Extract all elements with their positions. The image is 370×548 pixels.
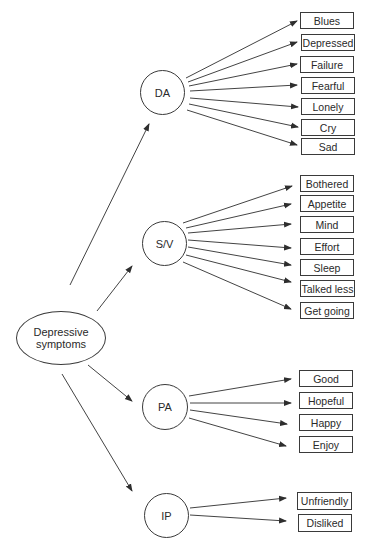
edge-root-to-sv bbox=[97, 266, 132, 311]
edge-root-to-pa bbox=[88, 365, 132, 401]
item-box-good: Good bbox=[299, 370, 353, 387]
edge-da-failure bbox=[189, 64, 297, 86]
edge-sv-get-going bbox=[183, 262, 291, 309]
item-box-mind: Mind bbox=[300, 216, 354, 233]
factor-node-pa: PA bbox=[142, 384, 188, 430]
edge-da-blues bbox=[186, 21, 297, 78]
item-box-happy: Happy bbox=[299, 414, 353, 431]
item-box-blues: Blues bbox=[300, 12, 354, 29]
edge-sv-effort bbox=[188, 240, 291, 248]
edge-root-to-ip bbox=[62, 374, 132, 491]
item-box-failure: Failure bbox=[300, 56, 354, 73]
root-label-line1: Depressive bbox=[33, 326, 88, 338]
factor-node-da: DA bbox=[140, 70, 185, 115]
edge-ip-disliked bbox=[190, 515, 286, 521]
edge-sv-bothered bbox=[183, 186, 292, 223]
factor-node-sv: S/V bbox=[142, 221, 187, 266]
edge-da-depressed bbox=[188, 42, 297, 82]
edge-sv-talked-less bbox=[186, 255, 291, 282]
item-box-lonely: Lonely bbox=[301, 98, 355, 115]
edge-sv-mind bbox=[188, 224, 291, 233]
item-box-bothered: Bothered bbox=[300, 175, 354, 192]
item-box-enjoy: Enjoy bbox=[299, 436, 353, 453]
item-box-depressed: Depressed bbox=[301, 34, 355, 51]
edge-pa-happy bbox=[190, 410, 287, 424]
item-box-talked-less: Talked less bbox=[300, 280, 355, 297]
factor-node-ip: IP bbox=[144, 493, 189, 538]
item-box-sleep: Sleep bbox=[300, 259, 354, 276]
item-box-cry: Cry bbox=[301, 119, 355, 136]
edge-pa-good bbox=[189, 379, 291, 396]
edge-sv-sleep bbox=[188, 247, 291, 265]
root-label-line2: symptoms bbox=[36, 338, 86, 350]
item-box-hopeful: Hopeful bbox=[299, 392, 353, 409]
item-box-effort: Effort bbox=[300, 238, 354, 255]
item-box-unfriendly: Unfriendly bbox=[297, 492, 352, 510]
edge-root-to-da bbox=[70, 124, 149, 285]
item-box-disliked: Disliked bbox=[298, 514, 352, 532]
edge-da-lonely bbox=[190, 98, 298, 107]
item-box-sad: Sad bbox=[301, 138, 355, 155]
edge-ip-unfriendly bbox=[190, 498, 286, 508]
edge-da-fearful bbox=[190, 85, 297, 91]
root-node-depressive-symptoms: Depressive symptoms bbox=[16, 311, 106, 365]
edge-sv-appetite bbox=[186, 204, 291, 228]
item-box-fearful: Fearful bbox=[301, 77, 355, 94]
item-box-appetite: Appetite bbox=[300, 195, 354, 212]
item-box-get-going: Get going bbox=[300, 302, 354, 319]
